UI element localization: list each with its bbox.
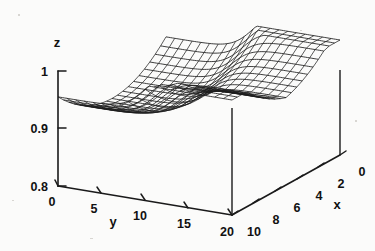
mesh-line [180,31,288,91]
mesh-line [223,39,331,99]
x-tick-0 [340,151,346,155]
y-tick-label-15: 15 [177,217,191,231]
mesh-line [215,37,323,97]
mesh-line [166,26,340,44]
axis-titles: z y x [54,35,342,229]
z-tick-label-0.9: 0.9 [31,122,48,136]
x-tick-label-4: 4 [316,189,323,203]
y-tick-labels: 0 5 10 15 20 [49,195,234,239]
y-axis-title: y [109,214,117,229]
y-tick-10 [141,194,145,200]
z-axis-ticks [58,71,66,186]
x-tick-labels: 10 8 6 4 2 0 [247,165,365,239]
x-tick-label-10: 10 [247,225,261,239]
y-tick-label-0: 0 [49,195,56,209]
y-tick-label-5: 5 [91,202,98,216]
x-tick-label-6: 6 [294,201,301,215]
surface-plot-canvas: 1 0.9 0.8 0 5 10 15 20 10 8 6 4 2 0 z y … [0,0,375,251]
z-axis-title: z [54,35,61,50]
x-tick-label-8: 8 [273,213,280,227]
mesh-line [171,30,279,91]
y-tick-label-10: 10 [133,209,147,223]
surface-mesh [58,26,340,113]
x-tick-4 [297,175,303,179]
z-tick-label-1: 1 [41,65,48,79]
x-axis-title: x [333,197,341,212]
z-tick-labels: 1 0.9 0.8 [31,65,48,194]
chart-figure: 1 0.9 0.8 0 5 10 15 20 10 8 6 4 2 0 z y … [0,0,375,251]
z-tick-label-0.8: 0.8 [31,180,48,194]
y-tick-label-20: 20 [220,225,234,239]
x-tick-label-0: 0 [359,165,366,179]
mesh-line [232,40,340,100]
x-tick-label-2: 2 [338,177,345,191]
